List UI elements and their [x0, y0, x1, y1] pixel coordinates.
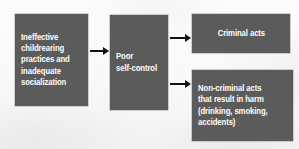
arrow-shaft-icon — [170, 37, 186, 39]
node-non-criminal-acts[interactable]: Non-criminal acts that result in harm (d… — [192, 70, 293, 141]
node-non-criminal-acts-label: Non-criminal acts that result in harm (d… — [198, 83, 284, 128]
arrow-head-icon — [103, 47, 109, 55]
node-poor-self-control-label: Poor self-control — [116, 51, 163, 73]
flowchart-diagram: Ineffective childrearing practices and i… — [0, 0, 299, 149]
node-criminal-acts-label: Criminal acts — [217, 28, 264, 39]
arrow-shaft-icon — [90, 50, 104, 52]
node-poor-self-control[interactable]: Poor self-control — [110, 15, 168, 110]
arrow-head-icon — [185, 34, 191, 42]
node-ineffective-childrearing-label: Ineffective childrearing practices and i… — [21, 32, 81, 88]
arrow-head-icon — [185, 80, 191, 88]
node-criminal-acts[interactable]: Criminal acts — [192, 14, 290, 53]
arrow-shaft-icon — [170, 83, 186, 85]
node-ineffective-childrearing[interactable]: Ineffective childrearing practices and i… — [15, 14, 88, 106]
